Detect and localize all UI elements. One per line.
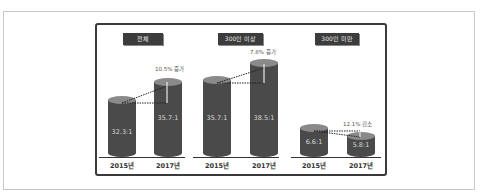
x-label-300-plus-2015: 2015년 xyxy=(197,160,237,170)
x-label-total-2017: 2017년 xyxy=(148,160,188,170)
x-label-under-300-2017: 2017년 xyxy=(341,160,381,170)
x-label-300-plus-2017: 2017년 xyxy=(244,160,284,170)
change-connector-lines xyxy=(0,0,482,193)
x-label-under-300-2015: 2015년 xyxy=(294,160,334,170)
x-label-total-2015: 2015년 xyxy=(102,160,142,170)
